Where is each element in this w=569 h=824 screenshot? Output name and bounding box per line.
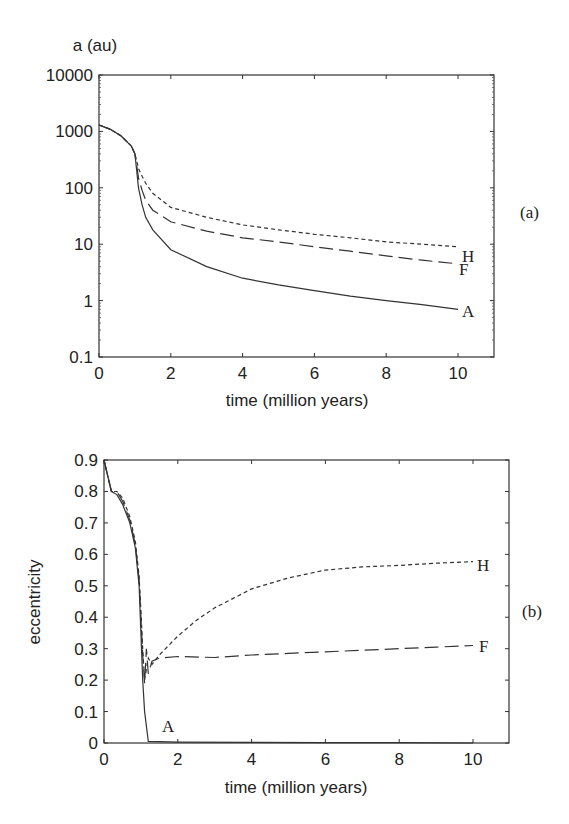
y-tick-label: 0.5	[74, 577, 98, 596]
x-tick-label: 8	[381, 364, 390, 383]
curve-H	[104, 460, 473, 680]
bottom-label-H: H	[477, 556, 489, 575]
bottom-curves	[104, 460, 473, 743]
y-tick-label: 0	[89, 734, 98, 753]
y-tick-label: 1	[84, 292, 93, 311]
curve-A	[104, 460, 473, 743]
x-tick-label: 10	[449, 364, 468, 383]
y-tick-label: 10	[74, 235, 93, 254]
x-tick-label: 0	[99, 750, 108, 769]
bottom-label-F: F	[479, 637, 488, 656]
y-tick-label: 0.7	[74, 514, 98, 533]
x-tick-label: 8	[394, 750, 403, 769]
bottom-plot-frame	[104, 460, 509, 743]
y-tick-label: 0.4	[74, 608, 98, 627]
bottom-y-axis-title: eccentricity	[25, 559, 44, 645]
curve-F	[104, 460, 473, 683]
top-label-F: F	[459, 260, 468, 279]
y-tick-label: 1000	[55, 122, 93, 141]
top-y-axis-title: a (au)	[73, 36, 117, 55]
x-tick-label: 4	[247, 750, 256, 769]
y-tick-label: 100	[65, 179, 93, 198]
y-tick-label: 0.1	[69, 348, 93, 367]
figure: a (au) 02468100.1110100100010000 H F A (…	[0, 0, 569, 824]
y-tick-label: 0.9	[74, 451, 98, 470]
top-plot-frame	[99, 75, 494, 357]
curve-H	[99, 125, 458, 247]
x-tick-label: 2	[173, 750, 182, 769]
y-tick-label: 0.1	[74, 703, 98, 722]
semi-major-axis-chart: a (au) 02468100.1110100100010000 H F A (…	[46, 36, 539, 410]
x-tick-label: 10	[464, 750, 483, 769]
y-tick-label: 0.8	[74, 482, 98, 501]
x-tick-label: 4	[238, 364, 247, 383]
bottom-label-A: A	[162, 717, 175, 736]
y-tick-label: 0.2	[74, 671, 98, 690]
x-tick-label: 6	[310, 364, 319, 383]
y-tick-label: 0.6	[74, 545, 98, 564]
x-tick-label: 2	[166, 364, 175, 383]
panel-label-b: (b)	[522, 602, 542, 621]
eccentricity-chart: 024681000.10.20.30.40.50.60.70.80.9 H F …	[25, 451, 542, 797]
x-tick-label: 6	[321, 750, 330, 769]
top-curves	[99, 125, 458, 309]
top-x-axis-title: time (million years)	[226, 391, 369, 410]
y-tick-label: 0.3	[74, 640, 98, 659]
curve-A	[99, 125, 458, 309]
top-axis-ticks: 02468100.1110100100010000	[46, 66, 494, 383]
top-label-A: A	[462, 302, 475, 321]
x-tick-label: 0	[94, 364, 103, 383]
bottom-x-axis-title: time (million years)	[225, 778, 368, 797]
panel-label-a: (a)	[520, 203, 539, 222]
y-tick-label: 10000	[46, 66, 93, 85]
